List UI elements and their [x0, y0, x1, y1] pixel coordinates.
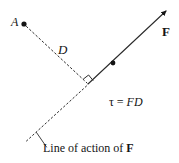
- torque-equation-label: τ = FD: [109, 96, 143, 108]
- torque-diagram-figure: A D F τ = FD Line of action of F: [0, 0, 179, 163]
- point-a-dot: [21, 21, 26, 26]
- force-f-label: F: [162, 25, 170, 38]
- distance-d-label: D: [58, 43, 67, 56]
- line-of-action-dotted: [27, 86, 87, 141]
- line-of-action-caption-text: Line of action of: [43, 141, 126, 155]
- line-of-action-force-symbol: F: [126, 141, 133, 155]
- moment-arm-line: [27, 27, 88, 84]
- right-angle-marker: [83, 75, 93, 81]
- point-a-label: A: [11, 16, 18, 28]
- diagram-canvas: [0, 0, 179, 163]
- force-line-dot: [111, 61, 116, 66]
- torque-rhs: FD: [127, 95, 143, 109]
- force-vector-arrow: [88, 11, 166, 84]
- torque-equals-sign: =: [114, 95, 127, 109]
- line-of-action-caption: Line of action of F: [43, 142, 134, 154]
